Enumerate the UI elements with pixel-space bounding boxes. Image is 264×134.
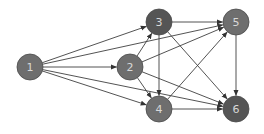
- node-label: 1: [27, 61, 34, 74]
- node-label: 3: [156, 16, 163, 29]
- node-label: 2: [127, 61, 134, 74]
- node-5: 5: [223, 9, 249, 35]
- directed-graph: 123456: [0, 0, 264, 134]
- node-1: 1: [17, 54, 43, 80]
- nodes-layer: 123456: [17, 9, 249, 122]
- node-label: 6: [233, 103, 240, 116]
- node-label: 5: [233, 16, 240, 29]
- edge-2-to-3: [137, 33, 152, 56]
- node-6: 6: [223, 96, 249, 122]
- node-2: 2: [117, 54, 143, 80]
- edge-2-to-4: [137, 78, 151, 98]
- node-3: 3: [146, 9, 172, 35]
- node-label: 4: [156, 103, 163, 116]
- node-4: 4: [146, 96, 172, 122]
